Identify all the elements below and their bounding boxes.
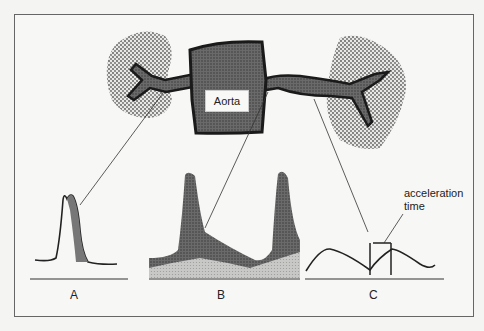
label-b: B	[217, 288, 225, 302]
label-a: A	[70, 288, 78, 302]
aorta-label: Aorta	[205, 90, 249, 112]
renal-doppler-diagram	[0, 0, 484, 331]
label-c: C	[369, 288, 378, 302]
time-line: time	[404, 200, 484, 213]
aorta-block	[190, 42, 266, 134]
acceleration-time-label: acceleration time	[404, 187, 484, 213]
acceleration-line: acceleration	[404, 187, 484, 200]
